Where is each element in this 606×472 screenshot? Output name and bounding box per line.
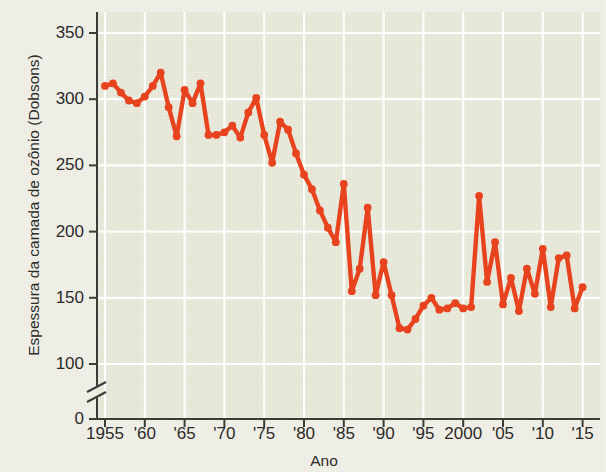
- data-point: [205, 131, 213, 139]
- plot-area: [0, 0, 606, 472]
- data-point: [308, 185, 316, 193]
- ozone-thickness-chart: Espessura da camada de ozônio (Dobsons) …: [0, 0, 606, 472]
- x-axis-tick-label: '75: [253, 424, 275, 444]
- data-point: [571, 304, 579, 312]
- y-axis-tick-labels: 0100150200250300350: [0, 0, 84, 472]
- y-axis-tick-label: 100: [22, 354, 84, 374]
- data-point: [451, 299, 459, 307]
- data-point: [213, 131, 221, 139]
- x-axis-tick-labels: 1955'60'65'70'75'80'85'90'952000'05'10'1…: [0, 424, 606, 454]
- y-axis-tick-label: 150: [22, 288, 84, 308]
- plot-texture: [97, 12, 600, 419]
- data-point: [475, 192, 483, 200]
- data-point: [133, 99, 141, 107]
- data-point: [372, 291, 380, 299]
- x-axis-tick-label: '05: [492, 424, 514, 444]
- x-axis-tick-label: '15: [572, 424, 594, 444]
- y-axis-tick-label: 350: [22, 23, 84, 43]
- data-point: [125, 97, 133, 105]
- y-axis-tick-label: 250: [22, 155, 84, 175]
- x-axis-title: Ano: [0, 452, 606, 470]
- data-point: [292, 150, 300, 158]
- data-point: [340, 180, 348, 188]
- data-point: [109, 79, 117, 87]
- x-axis-tick-label: '65: [174, 424, 196, 444]
- x-axis-tick-label: '70: [213, 424, 235, 444]
- data-point: [563, 252, 571, 260]
- data-point: [491, 238, 499, 246]
- data-point: [555, 254, 563, 262]
- y-axis-ticks: [89, 33, 97, 419]
- data-point: [547, 303, 555, 311]
- data-point: [420, 302, 428, 310]
- data-point: [284, 126, 292, 134]
- data-point: [507, 274, 515, 282]
- x-axis-tick-label: '95: [412, 424, 434, 444]
- data-point: [149, 82, 157, 90]
- data-point: [101, 82, 109, 90]
- data-point: [348, 287, 356, 295]
- data-point: [181, 86, 189, 94]
- data-point: [228, 122, 236, 130]
- x-axis-tick-label: '60: [134, 424, 156, 444]
- data-point: [244, 109, 252, 117]
- data-point: [499, 301, 507, 309]
- data-point: [197, 79, 205, 87]
- data-point: [467, 303, 475, 311]
- data-point: [404, 326, 412, 334]
- data-point: [523, 265, 531, 273]
- data-point: [483, 278, 491, 286]
- data-point: [332, 238, 340, 246]
- data-point: [388, 291, 396, 299]
- x-axis-tick-label: '90: [373, 424, 395, 444]
- x-axis-tick-label: 2000: [444, 424, 482, 444]
- data-point: [459, 304, 467, 312]
- x-axis-tick-label: '85: [333, 424, 355, 444]
- data-point: [173, 132, 181, 140]
- data-point: [276, 118, 284, 126]
- data-point: [515, 307, 523, 315]
- data-point: [268, 159, 276, 167]
- x-axis-tick-label: 1955: [86, 424, 124, 444]
- y-axis-tick-label: 200: [22, 222, 84, 242]
- data-point: [443, 304, 451, 312]
- data-point: [221, 128, 229, 136]
- data-point: [252, 94, 260, 102]
- y-axis-tick-label: 300: [22, 89, 84, 109]
- data-point: [117, 89, 125, 97]
- data-point: [579, 283, 587, 291]
- data-point: [380, 258, 388, 266]
- data-point: [427, 294, 435, 302]
- data-point: [324, 224, 332, 232]
- data-point: [236, 134, 244, 142]
- data-point: [165, 103, 173, 111]
- x-axis-tick-label: '80: [293, 424, 315, 444]
- data-point: [157, 69, 165, 77]
- data-point: [435, 306, 443, 314]
- data-point: [539, 245, 547, 253]
- data-point: [141, 93, 149, 101]
- data-point: [364, 204, 372, 212]
- data-point: [300, 171, 308, 179]
- x-axis-tick-label: '10: [532, 424, 554, 444]
- data-point: [396, 324, 404, 332]
- data-point: [356, 265, 364, 273]
- data-point: [531, 290, 539, 298]
- data-point: [412, 315, 420, 323]
- data-point: [316, 207, 324, 215]
- data-point: [189, 99, 197, 107]
- data-point: [260, 131, 268, 139]
